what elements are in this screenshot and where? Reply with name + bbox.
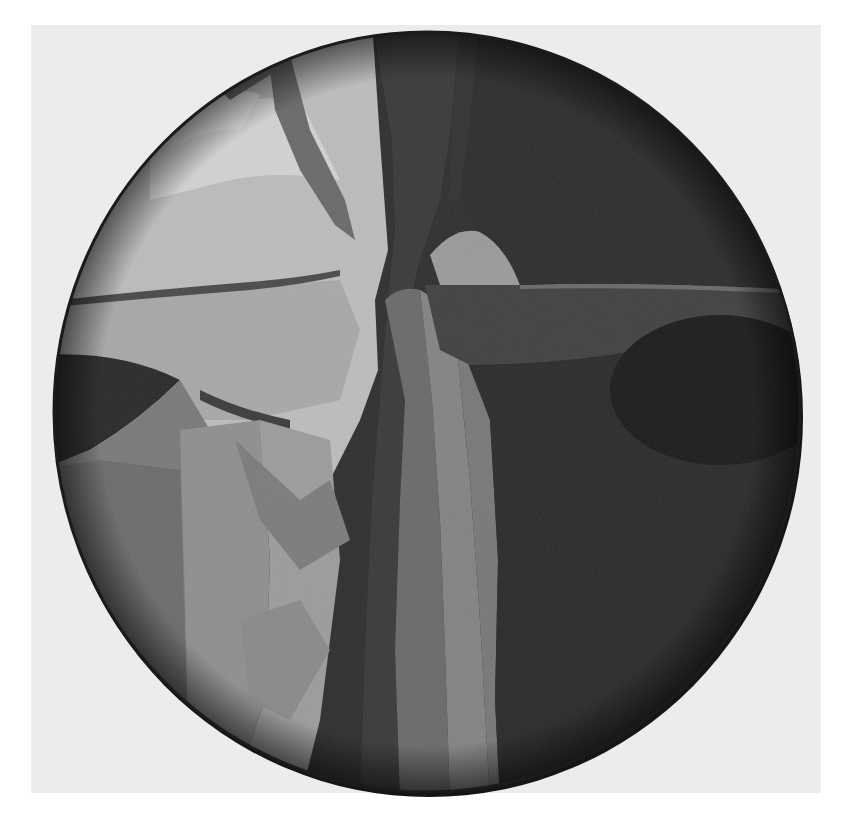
- painting-surface: [40, 20, 830, 810]
- circular-painting: [0, 0, 845, 816]
